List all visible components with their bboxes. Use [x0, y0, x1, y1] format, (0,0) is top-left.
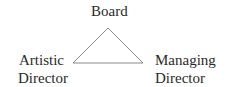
- triangle-edges: [73, 28, 143, 63]
- triangle-connector: [0, 0, 226, 87]
